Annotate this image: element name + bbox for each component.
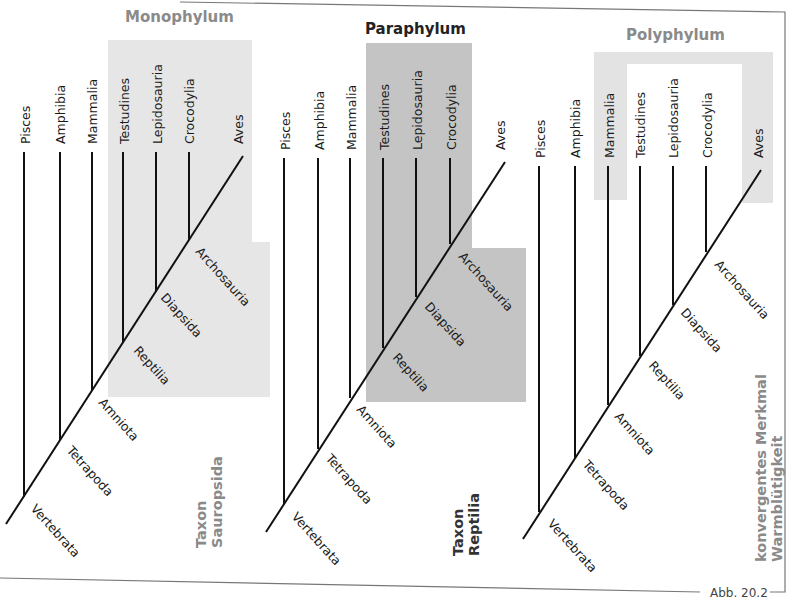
- figure-caption: Abb. 20.2: [710, 586, 768, 600]
- leaf-label: Mammalia: [85, 79, 100, 144]
- node-label: Tetrapoda: [322, 450, 375, 507]
- node-label: Diapsida: [678, 305, 725, 355]
- leaf-label: Crocodylia: [700, 92, 715, 158]
- leaf-label: Pisces: [18, 106, 33, 144]
- taxon-label-line2: Sauropsida: [209, 456, 225, 548]
- panel-title: Polyphylum: [626, 26, 725, 44]
- leaf-label: Testudines: [377, 84, 392, 151]
- taxon-label-line1: Taxon: [450, 509, 466, 556]
- node-label: Vertebrata: [289, 509, 345, 568]
- leaf-label: Crocodylia: [444, 84, 459, 150]
- leaf-label: Amphibia: [53, 85, 68, 144]
- node-label: Vertebrata: [545, 516, 601, 575]
- leaf-label: Mammalia: [602, 93, 617, 158]
- taxon-label-line2: Warmblütigkeit: [769, 435, 785, 562]
- panel-title: Monophylum: [125, 8, 234, 26]
- leaf-label: Lepidosauria: [666, 78, 681, 158]
- figure-bottom-rule: [0, 578, 700, 592]
- leaf-label: Amphibia: [312, 91, 327, 150]
- leaf-label: Mammalia: [344, 85, 359, 150]
- node-label: Archosauria: [712, 257, 773, 322]
- polyphylum-shade: [594, 52, 773, 203]
- node-label: Vertebrata: [28, 501, 84, 560]
- taxon-label-line1: Taxon: [193, 501, 209, 548]
- panel-polyphylum: Polyphylum Pisces Amphibia Mammalia Test…: [523, 26, 785, 575]
- node-label: Tetrapoda: [579, 456, 632, 513]
- taxon-label-line2: Reptilia: [466, 493, 482, 556]
- panel-monophylum: Monophylum Pisces Amphibia Mammalia Test…: [6, 8, 270, 560]
- leaf-label: Amphibia: [568, 99, 583, 158]
- leaf-label: Aves: [493, 121, 508, 150]
- leaf-label: Pisces: [533, 120, 548, 158]
- leaf-label: Crocodylia: [182, 78, 197, 144]
- leaf-label: Lepidosauria: [410, 70, 425, 150]
- cladogram-figure: Abb. 20.2 Monophylum Pisces Amphibia Mam…: [0, 0, 797, 602]
- node-label: Tetrapoda: [63, 442, 116, 499]
- leaf-label: Aves: [751, 129, 766, 158]
- node-label: Amniota: [612, 409, 658, 458]
- node-label: Amniota: [96, 395, 142, 444]
- leaf-label: Lepidosauria: [150, 64, 165, 144]
- leaf-label: Testudines: [633, 92, 648, 159]
- panel-paraphylum: Paraphylum Pisces Amphibia Mammalia Test…: [266, 20, 526, 568]
- leaf-label: Pisces: [278, 112, 293, 150]
- leaf-label: Aves: [231, 115, 246, 144]
- node-label: Amniota: [354, 402, 400, 451]
- leaf-label: Testudines: [117, 78, 132, 145]
- stem-branch: [523, 170, 761, 539]
- taxon-label-line1: konvergentes Merkmal: [753, 374, 769, 562]
- node-label: Reptilia: [646, 358, 688, 403]
- panel-title: Paraphylum: [365, 20, 466, 38]
